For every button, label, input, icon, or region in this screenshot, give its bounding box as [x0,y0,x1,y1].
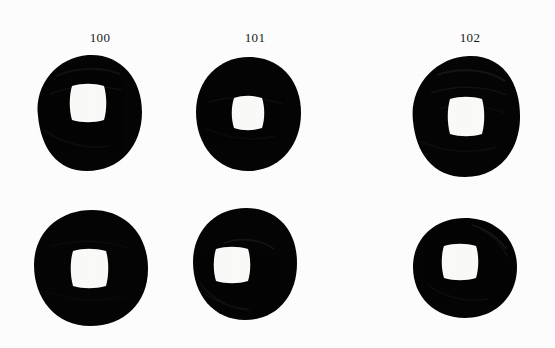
catalog-label-102: 102 [450,31,490,44]
catalog-label-101: 101 [235,31,275,44]
coin-image-100-bottom [30,207,152,329]
coin-image-101-top [191,54,305,174]
coin-plate: 100 101 102 [0,0,555,348]
coin-image-102-bottom [410,215,520,321]
coin-image-101-bottom [190,205,300,323]
coin-image-100-top [30,50,145,175]
coin-image-102-top [407,51,524,181]
catalog-label-100: 100 [80,31,120,44]
